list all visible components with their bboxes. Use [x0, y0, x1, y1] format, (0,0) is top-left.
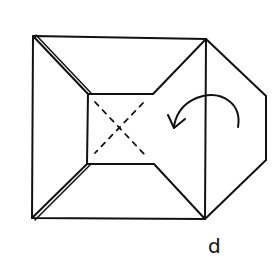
- valley-fold-x: [95, 102, 145, 155]
- diagonal-bottom-left-b: [35, 165, 90, 220]
- origami-diagram: [0, 0, 280, 271]
- diagonal-top-left: [33, 36, 88, 94]
- inner-square-bottom: [87, 164, 205, 219]
- inner-square-left: [87, 94, 88, 164]
- diagonal-bottom-left: [32, 164, 87, 218]
- step-label: d: [208, 236, 221, 256]
- diagonal-top-left-b: [36, 35, 91, 93]
- inner-square-top: [88, 39, 206, 94]
- right-flap: [205, 39, 266, 219]
